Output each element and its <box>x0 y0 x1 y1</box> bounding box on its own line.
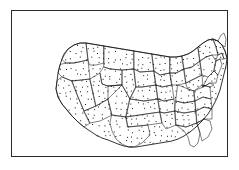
population-dot <box>114 131 115 132</box>
population-dot <box>115 136 116 137</box>
population-dot <box>105 48 106 49</box>
population-dot <box>128 130 129 131</box>
population-dot <box>137 115 138 116</box>
population-dot <box>97 135 98 136</box>
population-dot <box>192 126 193 127</box>
population-dot <box>138 90 139 91</box>
population-dot <box>130 74 131 75</box>
population-dot <box>199 121 200 122</box>
population-dot <box>88 110 89 111</box>
population-dot <box>92 124 93 125</box>
population-dot <box>80 91 81 92</box>
state-boundary <box>213 39 227 59</box>
population-dot <box>85 124 86 125</box>
population-dot <box>205 81 206 82</box>
state-boundary <box>170 69 186 85</box>
population-dot <box>212 97 213 98</box>
population-dot <box>108 98 109 99</box>
population-dot <box>108 91 109 92</box>
population-dot <box>93 48 94 49</box>
population-dot <box>108 62 109 63</box>
population-dot <box>110 113 111 114</box>
population-dot <box>206 56 207 57</box>
population-dot <box>66 69 67 70</box>
population-dot <box>104 98 105 99</box>
population-dot <box>115 90 116 91</box>
state-boundary <box>90 73 108 106</box>
population-dot <box>203 76 204 77</box>
population-dot <box>143 75 144 76</box>
state-boundary <box>203 71 218 87</box>
population-dot <box>105 107 106 108</box>
population-dot <box>114 62 115 63</box>
population-dot <box>93 93 94 94</box>
population-dot <box>83 63 84 64</box>
population-dot <box>199 74 200 75</box>
population-dot <box>148 102 149 103</box>
population-dot <box>187 58 188 59</box>
population-dot <box>188 115 189 116</box>
population-dot <box>88 70 89 71</box>
population-dot <box>197 108 198 109</box>
population-dot <box>88 99 89 100</box>
population-dot <box>199 47 200 48</box>
population-dot <box>176 91 177 92</box>
population-dot <box>85 74 86 75</box>
population-dot <box>211 40 212 41</box>
state-boundary <box>86 43 104 65</box>
population-dot <box>72 80 73 81</box>
population-dot <box>154 75 155 76</box>
population-dot <box>132 108 133 109</box>
population-dot <box>221 75 222 76</box>
population-dot <box>182 80 183 81</box>
population-dot <box>126 118 127 119</box>
population-dot <box>161 135 162 136</box>
population-dot <box>115 71 116 72</box>
population-dot <box>93 118 94 119</box>
population-dot <box>105 69 106 70</box>
population-dot <box>110 68 111 69</box>
population-dot <box>148 58 149 59</box>
population-dot <box>141 68 142 69</box>
population-dot <box>127 113 128 114</box>
population-dot <box>166 127 167 128</box>
population-dot <box>217 52 218 53</box>
population-dot <box>120 59 121 60</box>
population-dot <box>175 136 176 137</box>
population-dot <box>209 47 210 48</box>
population-dot <box>160 70 161 71</box>
population-dot <box>172 75 173 76</box>
population-dot <box>75 80 76 81</box>
population-dot <box>108 131 109 132</box>
population-dot <box>167 109 168 110</box>
population-dot <box>132 132 133 133</box>
population-dot <box>147 98 148 99</box>
state-boundary <box>108 85 130 117</box>
population-dot <box>126 87 127 88</box>
population-dot <box>220 47 221 48</box>
population-dot <box>115 59 116 60</box>
population-dot <box>211 71 212 72</box>
population-dot <box>204 85 205 86</box>
population-dot <box>60 78 61 79</box>
population-dot <box>132 54 133 55</box>
population-dot <box>131 137 132 138</box>
population-dot <box>69 109 70 110</box>
population-dot <box>181 108 182 109</box>
population-dot <box>126 140 127 141</box>
population-dot <box>143 103 144 104</box>
state-boundary <box>200 55 216 77</box>
population-dot <box>65 62 66 63</box>
population-dot <box>104 131 105 132</box>
population-dot <box>164 57 165 58</box>
population-dot <box>117 124 118 125</box>
population-dot <box>187 102 188 103</box>
population-dot <box>197 97 198 98</box>
population-dot <box>195 109 196 110</box>
population-dot <box>76 86 77 87</box>
population-dot <box>75 62 76 63</box>
population-dot <box>160 56 161 57</box>
population-dot <box>98 106 99 107</box>
population-dot <box>70 91 71 92</box>
population-dot <box>177 119 178 120</box>
